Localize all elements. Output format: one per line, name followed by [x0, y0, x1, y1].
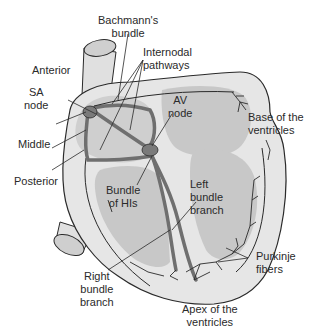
label-line: bundle — [80, 283, 114, 296]
label-line: ventricles — [248, 124, 304, 137]
label-line: Left — [190, 178, 224, 191]
label-line: branch — [190, 204, 224, 217]
label-line: Internodal — [143, 46, 192, 59]
label-line: Bachmann's — [98, 14, 158, 27]
label-line: bundle — [190, 191, 224, 204]
label-av-node: AV node — [168, 94, 192, 120]
label-bachmanns-bundle: Bachmann's bundle — [98, 14, 158, 40]
label-bundle-of-his: Bundle of HIs — [106, 184, 140, 210]
label-line: of HIs — [106, 197, 140, 210]
label-line: bundle — [98, 27, 158, 40]
label-line: node — [168, 107, 192, 120]
label-right-bundle-branch: Right bundle branch — [80, 270, 114, 309]
av-node — [142, 144, 158, 156]
label-line: AV — [168, 94, 192, 107]
label-internodal-pathways: Internodal pathways — [143, 46, 192, 72]
label-anterior: Anterior — [32, 64, 71, 77]
label-line: Purkinje — [256, 250, 296, 263]
label-line: Bundle — [106, 184, 140, 197]
label-line: SA — [24, 86, 48, 99]
label-line: fibers — [256, 263, 296, 276]
label-base-of-ventricles: Base of the ventricles — [248, 111, 304, 137]
label-line: Apex of the — [182, 303, 238, 316]
label-line: ventricles — [182, 316, 238, 329]
label-line: Right — [80, 270, 114, 283]
label-middle: Middle — [18, 138, 50, 151]
label-line: pathways — [143, 59, 192, 72]
label-sa-node: SA node — [24, 86, 48, 112]
label-left-bundle-branch: Left bundle branch — [190, 178, 224, 217]
label-line: Base of the — [248, 111, 304, 124]
label-line: branch — [80, 296, 114, 309]
label-line: node — [24, 99, 48, 112]
label-purkinje-fibers: Purkinje fibers — [256, 250, 296, 276]
label-posterior: Posterior — [14, 175, 58, 188]
label-apex-of-ventricles: Apex of the ventricles — [182, 303, 238, 329]
